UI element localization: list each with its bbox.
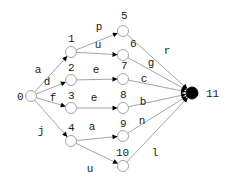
node-label: 9 — [120, 118, 127, 130]
edge-label: c — [141, 73, 148, 85]
state-node — [118, 26, 129, 37]
edge-9-11 — [128, 96, 187, 133]
edge-label: g — [148, 57, 155, 69]
node-label: 4 — [68, 122, 75, 134]
edge-4-10 — [76, 143, 118, 163]
edge-6-11 — [128, 58, 187, 90]
node-label: 11 — [206, 88, 220, 100]
node-label: 7 — [121, 60, 128, 72]
state-node — [66, 75, 77, 86]
state-node — [118, 74, 129, 85]
edge-label: a — [89, 121, 96, 133]
node-label: 5 — [121, 10, 128, 22]
edge-label: u — [87, 163, 94, 175]
edge-label: j — [38, 125, 45, 137]
state-node — [118, 131, 129, 142]
node-label: 2 — [68, 62, 75, 74]
node-label: 1 — [68, 33, 75, 45]
edge-7-11 — [128, 80, 186, 92]
edge-label: e — [91, 92, 98, 104]
edge-label: f — [50, 92, 57, 104]
edge-label: a — [35, 64, 42, 76]
state-node — [118, 161, 129, 172]
node-label: 10 — [116, 147, 129, 159]
edge-label: n — [139, 115, 146, 127]
state-node — [118, 103, 129, 114]
state-node — [26, 91, 37, 102]
edge-4-9 — [77, 137, 118, 141]
state-node — [66, 47, 77, 58]
state-node — [118, 50, 129, 61]
graph-canvas: adfjpueeaurgcbnl01234567891011 — [0, 0, 232, 184]
edge-8-11 — [128, 94, 186, 107]
state-node — [66, 136, 77, 147]
node-label: 8 — [120, 89, 127, 101]
edge-label: p — [96, 21, 103, 33]
state-node — [66, 103, 77, 114]
node-label: 6 — [130, 38, 137, 50]
final-state-node — [186, 87, 198, 99]
edge-label: l — [152, 147, 159, 159]
edge-label: b — [140, 96, 147, 108]
edge-label: u — [95, 39, 102, 51]
edge-2-7 — [77, 79, 118, 80]
graph-diagram: adfjpueeaurgcbnl01234567891011 — [0, 0, 232, 184]
edge-1-6 — [77, 52, 118, 54]
edge-label: d — [44, 76, 51, 88]
node-label: 3 — [68, 90, 75, 102]
edge-label: e — [93, 64, 100, 76]
node-label: 0 — [17, 91, 24, 103]
edge-label: r — [164, 45, 171, 57]
